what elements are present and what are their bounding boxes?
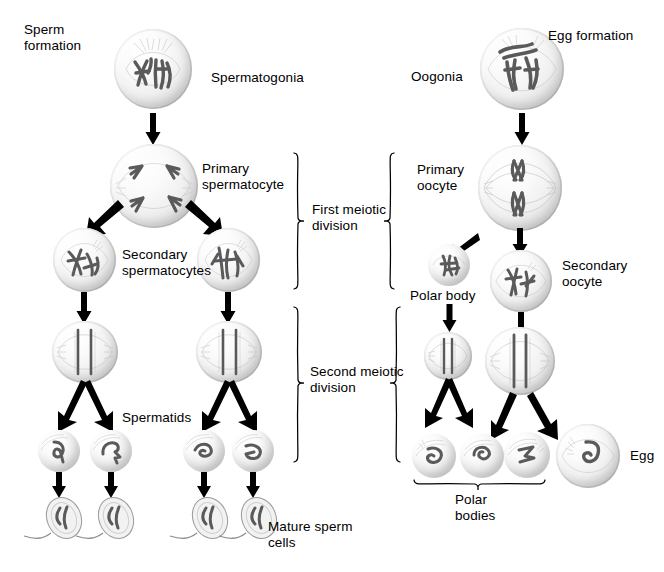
label-sperm-formation: Sperm formation xyxy=(24,22,81,53)
cell-polar-body-2 xyxy=(460,434,504,478)
cell-polar-body-dividing xyxy=(424,332,472,380)
cell-primary-oocyte xyxy=(478,145,562,231)
label-primary-spermatocyte: Primary spermatocyte xyxy=(202,161,284,192)
label-secondary-spermatocytes: Secondary spermatocytes xyxy=(122,247,211,278)
cell-secondary-oocyte xyxy=(490,250,552,312)
label-mature-sperm-cells: Mature sperm cells xyxy=(268,519,352,550)
cell-spermatid-1 xyxy=(38,430,80,472)
arrow-spermatid-3-to-sperm xyxy=(197,472,211,498)
label-oogonia: Oogonia xyxy=(411,69,463,85)
arrow-metaphase-right-to-spermatid-4 xyxy=(228,380,260,432)
arrow-polar-body-down xyxy=(442,304,457,332)
arrow-secondary-right-down xyxy=(220,292,236,324)
cell-first-polar-body xyxy=(428,244,470,286)
cell-spermatid-4 xyxy=(232,430,274,472)
cell-spermatocyte-metaphase-right xyxy=(196,321,262,383)
label-egg: Egg xyxy=(630,448,654,464)
label-secondary-oocyte: Secondary oocyte xyxy=(562,258,627,289)
arrow-secondary-left-down xyxy=(76,292,92,324)
label-spermatids: Spermatids xyxy=(122,410,191,426)
arrow-spermatid-4-to-sperm xyxy=(246,472,260,498)
arrow-spermatid-1-to-sperm xyxy=(52,472,66,498)
arrow-oogonia-to-primary-oocyte xyxy=(514,113,530,145)
cell-secondary-oocyte-dividing xyxy=(485,327,555,395)
arrow-metaphase-left-to-spermatid-2 xyxy=(84,380,116,432)
cell-spermatid-3 xyxy=(183,430,225,472)
cell-polar-body-1 xyxy=(412,434,456,478)
arrow-spermatid-2-to-sperm xyxy=(104,472,118,498)
cell-spermatogonia xyxy=(114,29,192,109)
brace-first-meiotic-left xyxy=(292,152,306,290)
cell-polar-body-3 xyxy=(504,432,550,478)
label-egg-formation: Egg formation xyxy=(548,28,633,44)
arrow-polar-dividing-right xyxy=(446,378,474,428)
cell-spermatocyte-metaphase-left xyxy=(52,321,118,383)
arrow-metaphase-left-to-spermatid-1 xyxy=(55,380,87,432)
mature-sperm-2 xyxy=(72,496,144,556)
label-first-meiotic-division: First meiotic division xyxy=(312,202,386,233)
cell-egg xyxy=(556,424,620,488)
arrow-spermatogonia-to-primary xyxy=(145,113,161,145)
arrow-metaphase-right-to-spermatid-3 xyxy=(199,380,231,432)
label-polar-body: Polar body xyxy=(410,288,476,304)
label-spermatogonia: Spermatogonia xyxy=(211,70,304,86)
label-primary-oocyte: Primary oocyte xyxy=(417,162,464,193)
cell-spermatid-2 xyxy=(90,430,132,472)
brace-polar-bodies xyxy=(413,478,548,492)
brace-second-meiotic-left xyxy=(292,306,306,463)
label-second-meiotic-division: Second meiotic division xyxy=(310,364,404,395)
label-polar-bodies: Polar bodies xyxy=(455,492,495,523)
gametogenesis-diagram: Sperm formation Spermatogonia Primary sp… xyxy=(0,0,664,572)
cell-secondary-spermatocyte-left xyxy=(53,228,116,292)
